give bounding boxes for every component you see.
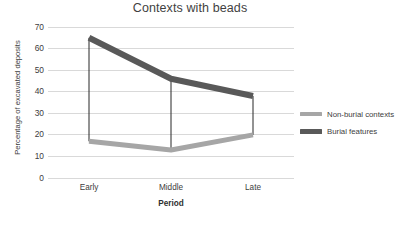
chart-legend: Non-burial contextsBurial features xyxy=(300,106,408,140)
x-tick-label: Late xyxy=(218,183,288,192)
chart-title: Contexts with beads xyxy=(60,1,320,15)
legend-entry[interactable]: Burial features xyxy=(300,123,408,139)
y-tick-label: 20 xyxy=(0,130,44,138)
x-axis-title: Period xyxy=(48,199,294,208)
y-tick-label: 30 xyxy=(0,109,44,117)
y-axis-tick-labels: 010203040506070 xyxy=(0,27,44,178)
x-axis-tick-labels: EarlyMiddleLate xyxy=(48,183,294,197)
x-tick-label: Early xyxy=(54,183,124,192)
y-tick-label: 10 xyxy=(0,152,44,160)
legend-entry[interactable]: Non-burial contexts xyxy=(300,106,408,122)
y-tick-label: 0 xyxy=(0,174,44,182)
series-lines xyxy=(48,27,294,178)
y-tick-label: 60 xyxy=(0,44,44,52)
y-tick-label: 40 xyxy=(0,87,44,95)
y-tick-label: 50 xyxy=(0,66,44,74)
legend-label: Burial features xyxy=(327,127,377,136)
y-tick-label: 70 xyxy=(0,23,44,31)
plot-area xyxy=(48,27,294,178)
legend-swatch xyxy=(300,112,322,116)
legend-label: Non-burial contexts xyxy=(327,110,394,119)
chart-container: Contexts with beads Percentage of excava… xyxy=(0,0,409,225)
legend-swatch xyxy=(300,129,322,134)
x-tick-label: Middle xyxy=(136,183,206,192)
